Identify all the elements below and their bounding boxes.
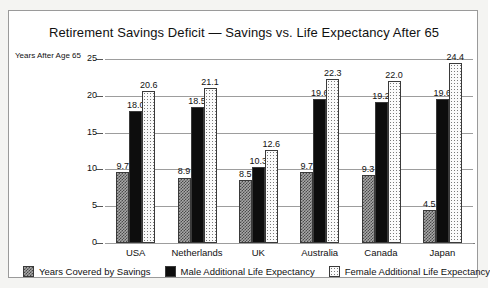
y-tick-mark xyxy=(96,133,103,134)
bar[interactable] xyxy=(362,175,375,243)
x-axis-category-label: Canada xyxy=(364,247,397,258)
bar-value-label: 21.1 xyxy=(201,77,219,87)
bar-value-label: 9.7 xyxy=(300,161,313,171)
chart-title: Retirement Savings Deficit — Savings vs.… xyxy=(9,25,479,40)
bar-group: 9.319.222.0 xyxy=(362,59,401,243)
bar-group: 9.718.020.6 xyxy=(116,59,155,243)
x-axis-category-label: Australia xyxy=(301,247,338,258)
y-tick-label: 15 xyxy=(75,127,97,137)
legend-item[interactable]: Female Additional Life Expectancy xyxy=(329,266,490,277)
bar[interactable] xyxy=(436,99,449,243)
bar[interactable] xyxy=(265,150,278,243)
bar[interactable] xyxy=(300,172,313,243)
y-tick-label: 20 xyxy=(75,90,97,100)
y-tick: 20 xyxy=(105,96,473,97)
bar[interactable] xyxy=(449,63,462,243)
bar[interactable] xyxy=(129,111,142,243)
y-tick-label: 0 xyxy=(75,237,97,247)
x-axis-category-label: Netherlands xyxy=(171,247,222,258)
bar[interactable] xyxy=(313,99,326,243)
y-tick-mark xyxy=(96,96,103,97)
bar[interactable] xyxy=(191,107,204,243)
bar-value-label: 22.0 xyxy=(385,70,403,80)
bar-group: 9.719.622.3 xyxy=(300,59,339,243)
y-axis-label: Years After Age 65 xyxy=(15,51,81,60)
y-tick-label: 5 xyxy=(75,200,97,210)
bar[interactable] xyxy=(142,91,155,243)
bar[interactable] xyxy=(239,180,252,243)
plot-area: 05101520259.718.020.68.918.521.18.510.31… xyxy=(105,59,473,243)
y-tick-mark xyxy=(96,59,103,60)
x-axis-category-label: UK xyxy=(252,247,265,258)
chart-legend: Years Covered by SavingsMale Additional … xyxy=(23,263,479,279)
bar[interactable] xyxy=(326,79,339,243)
y-tick-mark xyxy=(96,206,103,207)
legend-item[interactable]: Male Additional Life Expectancy xyxy=(165,266,315,277)
bar[interactable] xyxy=(388,81,401,243)
y-tick: 15 xyxy=(105,133,473,134)
legend-swatch-icon xyxy=(23,266,34,277)
y-tick: 0 xyxy=(105,243,473,244)
bar-value-label: 20.6 xyxy=(140,80,158,90)
bar-value-label: 9.3 xyxy=(362,164,375,174)
bar[interactable] xyxy=(252,167,265,243)
chart-frame: Retirement Savings Deficit — Savings vs.… xyxy=(8,10,478,278)
bar-value-label: 24.4 xyxy=(447,52,465,62)
bar[interactable] xyxy=(204,88,217,243)
y-tick: 5 xyxy=(105,206,473,207)
bar-group: 8.510.312.6 xyxy=(239,59,278,243)
bar[interactable] xyxy=(375,102,388,243)
bar-value-label: 4.5 xyxy=(423,199,436,209)
legend-label: Male Additional Life Expectancy xyxy=(181,266,315,277)
bar[interactable] xyxy=(423,210,436,243)
bar-value-label: 9.7 xyxy=(116,161,129,171)
x-axis-category-label: USA xyxy=(126,247,146,258)
legend-item[interactable]: Years Covered by Savings xyxy=(23,266,151,277)
y-tick: 10 xyxy=(105,169,473,170)
x-axis-category-label: Japan xyxy=(429,247,455,258)
bar-value-label: 8.9 xyxy=(178,166,191,176)
bar-group: 8.918.521.1 xyxy=(178,59,217,243)
bar-value-label: 12.6 xyxy=(263,139,281,149)
y-tick-mark xyxy=(96,243,103,244)
y-tick-label: 25 xyxy=(75,53,97,63)
legend-swatch-icon xyxy=(165,266,176,277)
bar-value-label: 22.3 xyxy=(324,68,342,78)
legend-label: Female Additional Life Expectancy xyxy=(345,266,490,277)
legend-label: Years Covered by Savings xyxy=(39,266,151,277)
y-tick: 25 xyxy=(105,59,473,60)
bar-group: 4.519.624.4 xyxy=(423,59,462,243)
bar[interactable] xyxy=(178,178,191,244)
y-tick-mark xyxy=(96,169,103,170)
bar[interactable] xyxy=(116,172,129,243)
y-tick-label: 10 xyxy=(75,163,97,173)
legend-swatch-icon xyxy=(329,266,340,277)
bar-value-label: 8.5 xyxy=(239,169,252,179)
